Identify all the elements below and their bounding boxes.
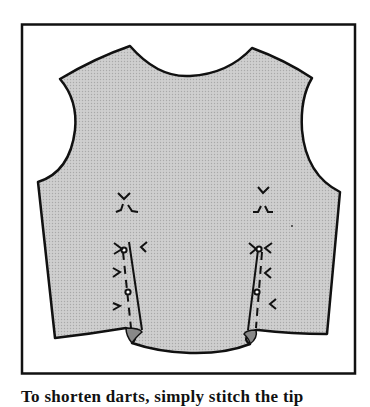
figure-caption: To shorten darts, simply stitch the tip xyxy=(21,387,361,407)
speck xyxy=(291,225,293,227)
bodice-pattern-piece xyxy=(38,46,340,353)
